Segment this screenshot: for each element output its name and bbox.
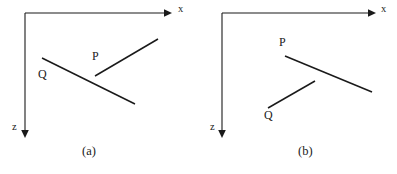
segment-p-a <box>95 39 158 76</box>
z-axis-label-b: z <box>210 122 215 133</box>
segment-q-a <box>42 58 135 104</box>
x-axis-arrowhead-b <box>368 9 376 17</box>
panel-b: x z P Q (b) <box>197 0 397 174</box>
x-axis-label-a: x <box>178 4 183 15</box>
x-axis-label-b: x <box>381 4 386 15</box>
panel-caption-a: (a) <box>82 145 96 158</box>
x-axis-arrowhead-a <box>164 9 172 17</box>
panel-caption-b: (b) <box>298 145 313 158</box>
panel-a: x z P Q (a) <box>0 0 200 174</box>
segment-q-b <box>268 81 315 108</box>
segment-p-b <box>285 56 372 92</box>
segment-label-p-b: P <box>279 36 286 48</box>
figure-canvas: x z P Q (a) x z P Q (b) <box>0 0 397 174</box>
panel-b-drawing <box>197 0 397 174</box>
z-axis-arrowhead-b <box>218 130 226 138</box>
z-axis-arrowhead-a <box>21 130 29 138</box>
segment-label-p-a: P <box>92 50 99 62</box>
segment-label-q-b: Q <box>264 109 273 121</box>
segment-label-q-a: Q <box>38 68 47 80</box>
panel-a-drawing <box>0 0 200 174</box>
z-axis-label-a: z <box>12 122 17 133</box>
